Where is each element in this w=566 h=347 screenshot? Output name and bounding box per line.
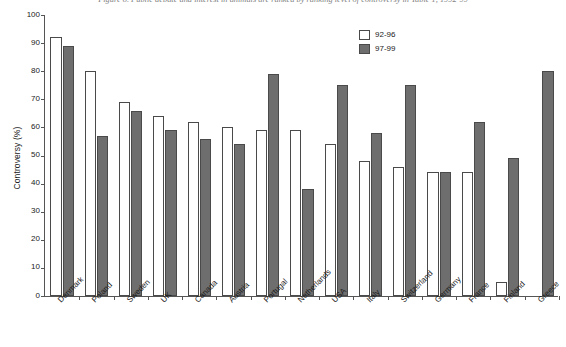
legend-item: 92-96 (359, 29, 395, 41)
legend-swatch (359, 30, 370, 40)
bar-group (359, 16, 382, 296)
bar (153, 116, 164, 296)
bar (63, 46, 74, 296)
bar-group (290, 16, 313, 296)
y-axis-tick-label: 30 (31, 206, 40, 216)
bar (97, 136, 108, 296)
bar (462, 172, 473, 296)
bars-layer (45, 16, 558, 296)
legend-item: 97-99 (359, 43, 395, 55)
bar (188, 122, 199, 296)
bar (337, 85, 348, 296)
bar (131, 111, 142, 296)
bar (440, 172, 451, 296)
y-axis-tick-label: 10 (31, 262, 40, 272)
bar (268, 74, 279, 296)
x-axis-tick-mark (559, 296, 560, 300)
bar (359, 161, 370, 296)
bar-group (462, 16, 485, 296)
bar-chart-figure: Controversy (%) 0102030405060708090100 D… (0, 0, 566, 347)
bar (85, 71, 96, 296)
bar (50, 37, 61, 296)
legend-swatch (359, 44, 370, 54)
y-axis-tick-label: 0 (36, 291, 40, 301)
bar-group (50, 16, 73, 296)
y-axis-tick-label: 80 (31, 66, 40, 76)
bar-group (188, 16, 211, 296)
bar-group (427, 16, 450, 296)
bar (165, 130, 176, 296)
y-axis-tick-label: 20 (31, 234, 40, 244)
legend-label: 97-99 (375, 44, 395, 54)
bar-group (496, 16, 519, 296)
y-axis-tick-label: 40 (31, 178, 40, 188)
y-axis-title: Controversy (%) (12, 88, 22, 228)
bar (234, 144, 245, 296)
bar (302, 189, 313, 296)
bar (290, 130, 301, 296)
y-axis-tick-label: 100 (27, 10, 40, 20)
bar-group (325, 16, 348, 296)
bar (542, 71, 553, 296)
x-axis-category-labels: DenmarkPolandSwedenUKCanadaAustriaPortug… (44, 298, 558, 347)
bar-group (393, 16, 416, 296)
bar (222, 127, 233, 296)
bar (474, 122, 485, 296)
bar (508, 158, 519, 296)
y-axis-tick-label: 90 (31, 38, 40, 48)
y-axis-tick-label: 50 (31, 150, 40, 160)
bar-group (222, 16, 245, 296)
bar (371, 133, 382, 296)
bar-group (119, 16, 142, 296)
y-axis-tick-label: 60 (31, 122, 40, 132)
plot-area: 0102030405060708090100 (44, 16, 558, 297)
legend-label: 92-96 (375, 30, 395, 40)
bar-group (530, 16, 553, 296)
bar-group (153, 16, 176, 296)
y-axis-tick-mark (41, 296, 45, 297)
bar (393, 167, 404, 296)
bar-group (85, 16, 108, 296)
bar (405, 85, 416, 296)
chart-legend: 92-9697-99 (359, 29, 423, 57)
y-axis-tick-label: 70 (31, 94, 40, 104)
bar-group (256, 16, 279, 296)
bar (256, 130, 267, 296)
bar (119, 102, 130, 296)
bar (200, 139, 211, 296)
